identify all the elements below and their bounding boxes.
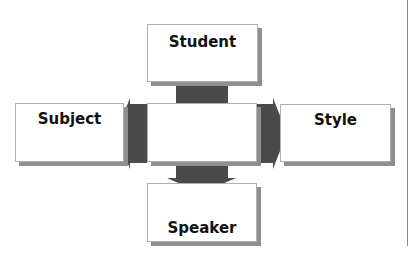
node-center [147,103,257,162]
node-label: Speaker [148,219,256,237]
node-label: Student [148,33,257,51]
node-style: Style [280,104,391,162]
node-label: Subject [16,110,123,128]
node-speaker: Speaker [147,183,257,242]
node-label: Style [281,111,390,129]
node-student: Student [147,24,258,82]
node-subject: Subject [15,103,124,162]
